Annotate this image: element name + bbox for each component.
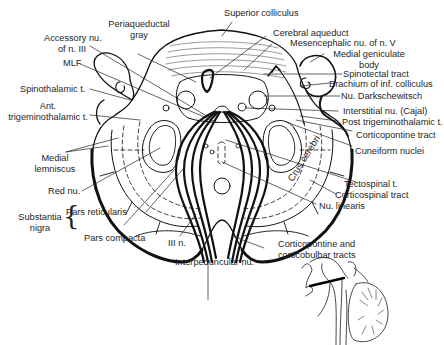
- label-medial-lemniscus: Medial lemniscus: [30, 153, 80, 174]
- inset-brainstem-sketch: [302, 258, 388, 345]
- label-tectospinal: Tectospinal t.: [344, 179, 398, 190]
- label-spinotectal: Spinotectal tract: [343, 69, 409, 80]
- label-post-trigeminothalamic: Post trigeminothalamic t.: [342, 117, 443, 128]
- label-nu-darkschewitsch: Nu. Darkschewitsch: [341, 91, 422, 102]
- label-interpeduncular: Interpeduncular nu.: [175, 257, 254, 268]
- label-cuneiform: Cuneiform nuclei: [355, 146, 424, 157]
- label-periaqueductal-gray: Periaqueductal gray: [104, 19, 174, 40]
- label-red-nu: Red nu.: [48, 186, 80, 197]
- label-brachium: Brachium of inf. colliculus: [329, 79, 433, 90]
- label-corticopontine-corticobulbar: Corticopontine and corticobulbar tracts: [278, 239, 356, 260]
- label-ant-trigeminothalamic: Ant. trigeminothalamic t.: [6, 101, 90, 122]
- label-nu-linearis: Nu. linearis: [319, 201, 365, 212]
- label-cerebral-aqueduct: Cerebral aqueduct: [273, 28, 349, 39]
- label-spinothalamic: Spinothalamic t.: [20, 84, 85, 95]
- label-pars-compacta: Pars compacta: [84, 233, 145, 244]
- cerebral-aqueduct: [202, 70, 213, 92]
- label-interstitial-nu: Interstitial nu. (Cajal): [343, 106, 427, 117]
- label-medial-geniculate: Medial geniculate body: [324, 49, 414, 70]
- label-third-nerve: III n.: [168, 238, 186, 249]
- midbrain-diagram: Superior colliculus Periaqueductal gray …: [0, 0, 444, 345]
- label-mesencephalic-nu: Mesencephalic nu. of n. V: [290, 38, 396, 49]
- label-corticopontine-tract: Corticopontine tract: [356, 130, 436, 141]
- label-accessory-nu: Accessory nu. of n. III: [44, 33, 100, 54]
- label-superior-colliculus: Superior colliculus: [224, 8, 299, 19]
- label-pars-reticularis: Pars reticularis: [66, 207, 127, 218]
- label-mlf: MLF: [63, 58, 81, 69]
- label-substantia-nigra: Substantia nigra: [16, 212, 64, 233]
- label-corticospinal: Corticospinal tract: [335, 190, 409, 201]
